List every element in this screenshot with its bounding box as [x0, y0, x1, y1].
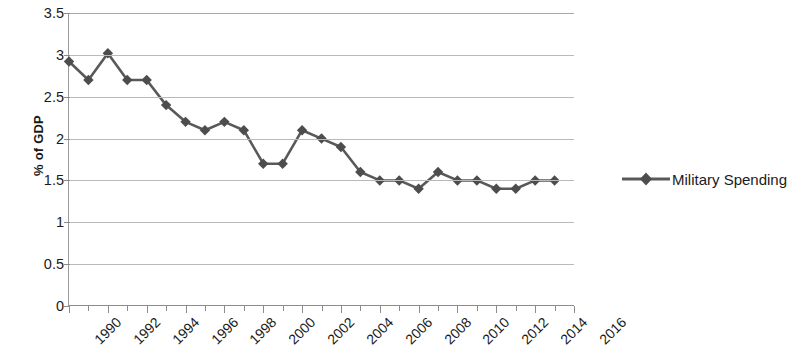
x-axis-tick-label: 2000 [285, 314, 318, 347]
legend-line-icon [620, 170, 672, 188]
y-axis-tick-label: 0.5 [18, 256, 64, 272]
y-axis-tick [64, 180, 70, 181]
gridline [69, 55, 574, 56]
x-axis-tick-labels: 1990199219941996199820002002200420062008… [68, 306, 573, 363]
legend: Military Spending [620, 170, 787, 188]
data-point-marker [239, 125, 249, 135]
x-axis-tick-label: 1998 [247, 314, 280, 347]
gridline [69, 222, 574, 223]
gridline [69, 180, 574, 181]
chart-container: % of GDP 3.532.521.510.50 19901992199419… [0, 0, 812, 363]
y-axis-tick [64, 13, 70, 14]
x-axis-tick-label: 1994 [169, 314, 202, 347]
x-axis-tick-label: 1996 [208, 314, 241, 347]
data-series-military-spending [69, 13, 574, 306]
gridline [69, 13, 574, 14]
y-axis-tick-label: 0 [18, 298, 64, 314]
x-axis-tick-label: 2004 [363, 314, 396, 347]
y-axis-tick [64, 139, 70, 140]
x-axis-tick-label: 2006 [402, 314, 435, 347]
x-axis-tick-label: 2012 [518, 314, 551, 347]
x-axis-tick-label: 1990 [91, 314, 124, 347]
data-point-marker [258, 158, 268, 168]
x-axis-tick-label: 2014 [557, 314, 590, 347]
y-axis-tick [64, 264, 70, 265]
gridline [69, 264, 574, 265]
plot-area [68, 13, 573, 306]
legend-marker-military-spending [620, 170, 672, 188]
y-axis-tick-labels: 3.532.521.510.50 [18, 0, 64, 363]
x-axis-tick-label: 2016 [596, 314, 629, 347]
y-axis-tick [64, 222, 70, 223]
gridline [69, 139, 574, 140]
x-axis-tick-label: 2010 [480, 314, 513, 347]
data-point-marker [491, 184, 501, 194]
data-point-marker [200, 125, 210, 135]
x-axis-tick-label: 2002 [324, 314, 357, 347]
x-axis-tick-label: 1992 [130, 314, 163, 347]
legend-label-military-spending: Military Spending [672, 172, 787, 187]
y-axis-tick [64, 97, 70, 98]
y-axis-tick-label: 1 [18, 214, 64, 230]
data-point-marker [511, 184, 521, 194]
series-line [69, 53, 555, 189]
gridline [69, 97, 574, 98]
data-point-marker [297, 125, 307, 135]
x-axis-tick-major [574, 306, 575, 313]
y-axis-tick-label: 1.5 [18, 172, 64, 188]
y-axis-tick-label: 3.5 [18, 5, 64, 21]
x-axis-tick-label: 2008 [441, 314, 474, 347]
data-point-marker [277, 158, 287, 168]
y-axis-tick-label: 3 [18, 47, 64, 63]
y-axis-tick [64, 55, 70, 56]
y-axis-tick-label: 2 [18, 131, 64, 147]
data-point-marker [219, 117, 229, 127]
y-axis-tick-label: 2.5 [18, 89, 64, 105]
